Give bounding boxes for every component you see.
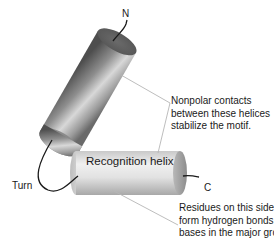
annotation-line: form hydrogen bonds with bbox=[179, 215, 274, 228]
residues-annotation: Residues on this side form hydrogen bond… bbox=[179, 202, 274, 240]
annotation-line: Nonpolar contacts bbox=[171, 95, 271, 108]
annotation-line: Residues on this side bbox=[179, 202, 274, 215]
nonpolar-leader-line bbox=[121, 75, 170, 153]
helix-turn-helix-diagram: N C Turn Recognition helix Nonpolar cont… bbox=[0, 0, 274, 247]
n-terminus-label: N bbox=[122, 8, 129, 19]
turn-label: Turn bbox=[12, 180, 32, 191]
annotation-line: stabilize the motif. bbox=[171, 120, 271, 133]
annotation-line: between these helices bbox=[171, 108, 271, 121]
annotation-line: bases in the major groove. bbox=[179, 227, 274, 240]
recognition-helix-label: Recognition helix bbox=[86, 155, 174, 167]
c-terminus-label: C bbox=[204, 182, 211, 193]
nonpolar-contacts-annotation: Nonpolar contacts between these helices … bbox=[171, 95, 271, 133]
residues-leader-line bbox=[112, 190, 178, 225]
